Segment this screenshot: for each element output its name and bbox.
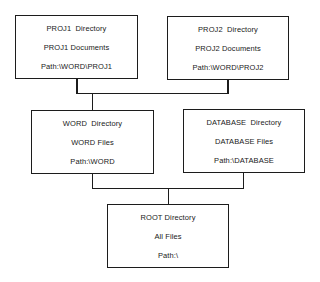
connector-word-up <box>92 93 94 110</box>
node-contents: All Files <box>108 232 228 241</box>
connector-root-up <box>168 188 170 204</box>
node-title: WORD Directory <box>32 119 153 128</box>
node-title: DATABASE Directory <box>184 118 304 127</box>
node-proj2: PROJ2 Directory PROJ2 Documents Path:\WO… <box>167 16 289 80</box>
node-contents: PROJ1 Documents <box>16 43 137 52</box>
node-title: ROOT Directory <box>108 213 228 222</box>
node-title: PROJ1 Directory <box>16 24 137 33</box>
node-word: WORD Directory WORD Files Path:\WORD <box>31 110 154 174</box>
node-path: Path:\WORD <box>32 157 153 166</box>
node-contents: PROJ2 Documents <box>168 44 288 53</box>
node-proj1: PROJ1 Directory PROJ1 Documents Path:\WO… <box>15 15 138 79</box>
node-title: PROJ2 Directory <box>168 25 288 34</box>
node-contents: DATABASE Files <box>184 137 304 146</box>
node-database: DATABASE Directory DATABASE Files Path:\… <box>183 109 305 173</box>
node-path: Path:\WORD\PROJ1 <box>16 62 137 71</box>
node-contents: WORD Files <box>32 138 153 147</box>
node-path: Path:\WORD\PROJ2 <box>168 63 288 72</box>
node-root: ROOT Directory All Files Path:\ <box>107 204 229 268</box>
node-path: Path:\ <box>108 251 228 260</box>
node-path: Path:\DATABASE <box>184 156 304 165</box>
connector-level1-bar <box>76 93 229 95</box>
